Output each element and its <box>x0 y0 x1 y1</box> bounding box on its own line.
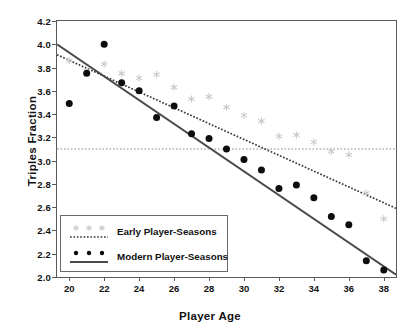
x-tick-label: 38 <box>378 283 389 294</box>
data-point <box>293 182 300 189</box>
y-axis-label: Triples Fraction <box>26 61 38 221</box>
chart-legend: Early Player-Seasons Modern Player-Seaso… <box>60 215 228 272</box>
data-point <box>66 57 72 63</box>
data-point <box>188 130 195 137</box>
data-point <box>346 152 352 158</box>
x-tick-label: 20 <box>64 283 75 294</box>
data-point <box>171 102 178 109</box>
data-point <box>259 118 265 124</box>
data-point <box>154 71 160 77</box>
legend-key-early <box>68 220 112 244</box>
legend-sample-modern <box>68 245 112 269</box>
x-tick-label: 36 <box>344 283 355 294</box>
data-point <box>310 194 317 201</box>
data-point <box>206 93 212 99</box>
legend-marker <box>87 225 92 230</box>
legend-marker <box>100 225 105 230</box>
data-point <box>311 139 317 145</box>
data-point <box>345 221 352 228</box>
data-point <box>328 213 335 220</box>
triples-fraction-scatter-chart: 2.02.22.42.62.83.03.23.43.63.84.04.2 202… <box>0 0 420 333</box>
data-point <box>381 216 387 222</box>
data-point <box>119 70 125 76</box>
series-points-early <box>66 57 386 222</box>
data-point <box>118 79 125 86</box>
data-point <box>275 185 282 192</box>
legend-sample-early <box>68 220 112 244</box>
data-point <box>153 114 160 121</box>
data-point <box>171 84 177 90</box>
legend-marker <box>74 225 79 230</box>
data-point <box>329 148 335 154</box>
x-tick-label: 22 <box>99 283 110 294</box>
data-point <box>294 132 300 138</box>
legend-label-modern: Modern Player-Seasons <box>117 245 228 269</box>
x-tick-label: 30 <box>239 283 250 294</box>
x-axis-label: Player Age <box>0 310 420 322</box>
data-point <box>136 87 143 94</box>
legend-label-early: Early Player-Seasons <box>117 220 217 244</box>
data-point <box>101 61 107 67</box>
data-point <box>276 133 282 139</box>
data-point <box>136 75 142 81</box>
data-point <box>83 70 90 77</box>
data-point <box>224 104 230 110</box>
data-point <box>66 100 73 107</box>
legend-item-modern: Modern Player-Seasons <box>61 245 229 269</box>
data-point <box>363 257 370 264</box>
x-tick-label: 26 <box>169 283 180 294</box>
data-point <box>258 166 265 173</box>
data-point <box>206 135 213 142</box>
x-tick-label: 32 <box>274 283 285 294</box>
legend-item-early: Early Player-Seasons <box>61 220 229 244</box>
data-point <box>240 156 247 163</box>
x-tick-label: 34 <box>309 283 320 294</box>
legend-key-modern <box>68 245 112 269</box>
x-tick-label: 28 <box>204 283 215 294</box>
data-point <box>380 267 387 274</box>
data-point <box>189 96 195 102</box>
x-tick-label: 24 <box>134 283 145 294</box>
data-point <box>101 41 108 48</box>
data-point <box>223 146 230 153</box>
data-point <box>241 112 247 118</box>
